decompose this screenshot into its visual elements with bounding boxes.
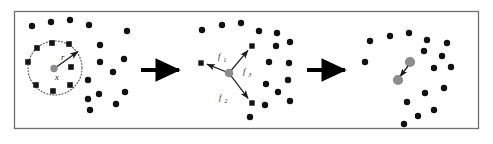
data-point	[431, 65, 437, 71]
data-point	[415, 113, 421, 119]
data-point	[256, 28, 262, 34]
data-point	[262, 102, 268, 108]
data-point	[86, 22, 92, 28]
data-point	[113, 101, 119, 107]
data-point	[274, 30, 280, 36]
data-point	[87, 107, 93, 113]
data-point	[247, 114, 253, 120]
data-point	[421, 48, 427, 54]
data-point	[367, 38, 373, 44]
figure-frame	[15, 12, 479, 129]
data-point	[285, 77, 291, 83]
frame-border	[15, 12, 479, 129]
data-point	[441, 85, 447, 91]
data-point	[422, 90, 428, 96]
neighbor-square	[66, 41, 72, 47]
force-3-subscript: 3	[248, 72, 252, 78]
force-1-subscript: 1	[224, 57, 227, 63]
data-point	[387, 33, 393, 39]
data-point	[124, 28, 130, 34]
data-point	[287, 39, 293, 45]
data-point	[85, 77, 91, 83]
data-point	[266, 59, 272, 65]
data-point	[122, 89, 128, 95]
force-2-subscript: 2	[225, 98, 228, 104]
origin-position-marker	[405, 57, 415, 67]
new-position-marker	[393, 75, 403, 85]
data-point	[401, 121, 407, 127]
data-point	[263, 81, 269, 87]
neighbor-square	[249, 100, 254, 105]
data-point	[67, 17, 73, 23]
data-point	[199, 27, 205, 33]
position-label: x	[54, 72, 59, 82]
neighbor-square	[198, 60, 203, 65]
data-point	[404, 99, 410, 105]
data-point	[275, 89, 281, 95]
neighbor-square	[68, 64, 74, 70]
focal-point-marker	[225, 69, 234, 78]
data-point	[273, 43, 279, 49]
data-point	[362, 59, 368, 65]
neighbor-square	[33, 82, 39, 88]
neighbor-square	[25, 59, 31, 65]
neighbor-square	[34, 45, 40, 51]
data-point	[439, 53, 445, 59]
neighbor-square	[67, 82, 73, 88]
data-point	[97, 59, 103, 65]
data-point	[97, 42, 103, 48]
data-point	[48, 19, 54, 25]
data-point	[424, 37, 430, 43]
neighbor-square	[50, 88, 56, 94]
data-point	[219, 22, 225, 28]
data-point	[431, 107, 437, 113]
data-point	[406, 30, 412, 36]
data-point	[238, 20, 244, 26]
data-point	[29, 23, 35, 29]
data-point	[96, 91, 102, 97]
diagram-canvas: r x f 1 f 2 f 3	[0, 0, 493, 144]
data-point	[444, 40, 450, 46]
data-point	[287, 98, 293, 104]
figure-container: r x f 1 f 2 f 3	[0, 0, 493, 144]
data-point	[286, 60, 292, 66]
data-point	[85, 96, 91, 102]
data-point	[110, 69, 116, 75]
data-point	[448, 64, 454, 70]
data-point	[121, 56, 127, 62]
neighbor-square	[49, 40, 55, 46]
neighbor-square	[249, 43, 254, 48]
